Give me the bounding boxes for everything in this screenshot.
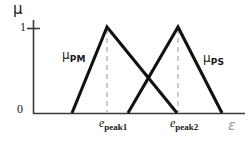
curve-label-mu-ps-base: μ (203, 51, 211, 65)
x-tick-label-peak1: epeak1 (99, 117, 127, 132)
x-tick-label-peak1-subscript: peak1 (104, 122, 127, 132)
curve-label-mu-pm-subscript: PM (70, 54, 86, 64)
curve-label-mu-pm-base: μ (62, 48, 70, 62)
curve-label-mu-ps: μPS (203, 52, 224, 67)
y-tick-label-1: 1 (20, 21, 26, 33)
curve-mu-pm (72, 27, 177, 113)
curve-label-mu-pm: μPM (62, 49, 86, 64)
fuzzy-membership-figure: μ 1 0 μPM μPS epeak1 epeak2 ε (0, 0, 251, 145)
x-axis-title: ε (228, 118, 236, 132)
x-tick-label-peak2-subscript: peak2 (175, 122, 198, 132)
x-tick-label-peak2: epeak2 (170, 117, 198, 132)
curve-label-mu-ps-subscript: PS (211, 57, 224, 67)
y-axis-title: μ (13, 2, 23, 17)
y-tick-label-0: 0 (17, 103, 23, 115)
